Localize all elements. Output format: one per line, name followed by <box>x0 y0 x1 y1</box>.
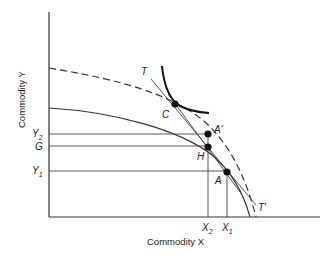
label-t-prime: T' <box>258 202 267 213</box>
point-c <box>171 100 178 107</box>
point-a <box>223 168 230 175</box>
tick-g: G <box>35 141 43 152</box>
point-h <box>204 143 211 150</box>
trade-line <box>168 94 240 192</box>
label-c: C <box>162 109 170 120</box>
tick-y2: Y2 <box>32 128 43 141</box>
tick-y1: Y1 <box>32 165 43 178</box>
x-axis-title: Commodity X <box>147 236 205 247</box>
tick-x1: X1 <box>221 222 233 235</box>
label-a-prime: A' <box>213 124 224 135</box>
tick-x2: X2 <box>201 222 213 235</box>
trade-diagram: C A' H A T T' Y2 G Y1 X2 X1 Commodity X … <box>0 0 336 258</box>
label-a: A <box>214 175 222 186</box>
indifference-curve <box>162 66 209 113</box>
label-t: T <box>141 66 148 77</box>
label-h: H <box>197 151 205 162</box>
point-a-prime <box>204 130 211 137</box>
y-axis-title: Commodity Y <box>16 70 27 128</box>
dashed-frontier-curve <box>49 68 256 217</box>
